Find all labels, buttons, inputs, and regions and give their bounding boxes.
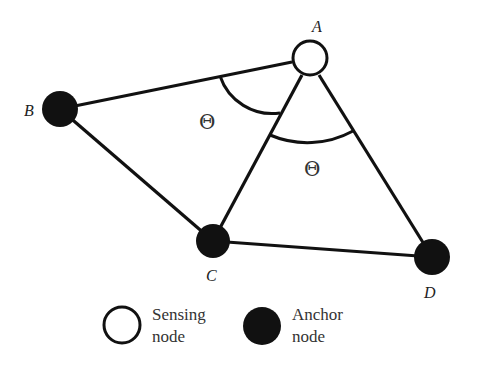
edges [60, 62, 432, 257]
angle-arc-cad [270, 131, 353, 143]
sensing-node-a [293, 41, 327, 75]
legend-anchor-icon [243, 307, 281, 345]
legend: Sensing node Anchor node [104, 305, 343, 346]
localization-diagram: A B C D Θ Θ Sensing node Anchor node [0, 0, 477, 367]
angle-theta-2: Θ [304, 157, 320, 181]
anchor-node-c [196, 224, 230, 258]
legend-sensing-line2: node [152, 327, 185, 346]
node-label-a: A [311, 18, 322, 35]
anchor-node-b [42, 91, 78, 127]
node-label-d: D [423, 284, 436, 301]
edge-a-b [60, 62, 292, 109]
edge-b-c [60, 109, 213, 241]
angle-arc-bac [220, 76, 280, 114]
edge-c-d [213, 241, 432, 257]
legend-sensing-line1: Sensing [152, 305, 206, 324]
edge-a-d [319, 75, 432, 257]
node-label-b: B [24, 102, 34, 119]
legend-anchor-line1: Anchor [292, 305, 343, 324]
anchor-node-d [414, 239, 450, 275]
angle-theta-1: Θ [199, 110, 215, 134]
legend-sensing-icon [104, 307, 140, 343]
edge-a-c [213, 75, 302, 241]
legend-anchor-line2: node [292, 327, 325, 346]
node-label-c: C [206, 267, 217, 284]
